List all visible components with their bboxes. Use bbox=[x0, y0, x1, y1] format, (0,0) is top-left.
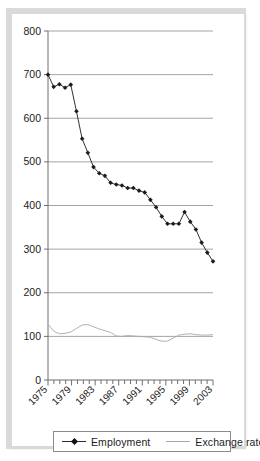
legend-marker-employment-icon bbox=[62, 437, 86, 447]
svg-text:500: 500 bbox=[23, 155, 41, 167]
y-axis-labels-group: 0100200300400500600700800 bbox=[23, 25, 41, 386]
svg-text:1987: 1987 bbox=[97, 383, 121, 407]
legend-label-exchange-rate: Exchange rate bbox=[195, 436, 260, 448]
x-axis-labels-group: 19751979198319871991199519992003 bbox=[26, 383, 215, 407]
chart-legend: Employment Exchange rate bbox=[53, 431, 231, 452]
line-chart-plot: 0100200300400500600700800 19751979198319… bbox=[12, 14, 244, 446]
svg-text:200: 200 bbox=[23, 286, 41, 298]
legend-marker-exchange-rate-icon bbox=[166, 437, 190, 447]
svg-text:1991: 1991 bbox=[120, 383, 144, 407]
svg-text:1983: 1983 bbox=[73, 383, 97, 407]
series-line-exchange-rate bbox=[48, 324, 213, 341]
legend-item-employment: Employment bbox=[62, 432, 150, 451]
svg-text:600: 600 bbox=[23, 112, 41, 124]
svg-text:100: 100 bbox=[23, 330, 41, 342]
svg-text:400: 400 bbox=[23, 199, 41, 211]
chart-card: 0100200300400500600700800 19751979198319… bbox=[12, 14, 244, 446]
svg-text:700: 700 bbox=[23, 68, 41, 80]
series-markers-employment bbox=[46, 72, 216, 263]
gridlines-group bbox=[48, 31, 213, 336]
y-axis-ticks-group bbox=[44, 31, 48, 380]
legend-item-exchange-rate: Exchange rate bbox=[166, 432, 260, 451]
svg-text:1979: 1979 bbox=[49, 383, 73, 407]
svg-text:1999: 1999 bbox=[167, 383, 191, 407]
svg-text:300: 300 bbox=[23, 243, 41, 255]
svg-text:1995: 1995 bbox=[144, 383, 168, 407]
series-line-employment bbox=[48, 75, 213, 262]
legend-label-employment: Employment bbox=[91, 436, 150, 448]
svg-text:2003: 2003 bbox=[191, 383, 215, 407]
chart-figure: 0100200300400500600700800 19751979198319… bbox=[0, 0, 260, 461]
x-axis-ticks-group bbox=[48, 380, 213, 386]
svg-text:800: 800 bbox=[23, 25, 41, 37]
svg-text:1975: 1975 bbox=[26, 383, 50, 407]
